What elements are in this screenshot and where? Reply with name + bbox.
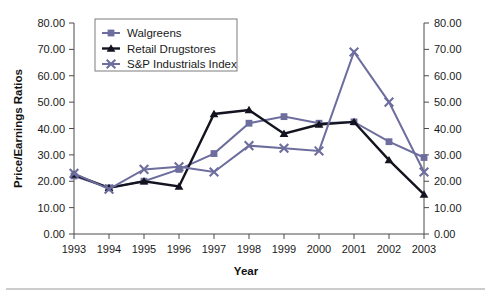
price-earnings-ratio-line-chart: 0.0010.0020.0030.0040.0050.0060.0070.008… [0, 0, 491, 292]
secondary-y-axis-tick-labels: 0.0010.0020.0030.0040.0050.0060.0070.008… [434, 17, 462, 240]
y-axis-title: Price/Earnings Ratios [12, 69, 24, 188]
chart-container: 0.0010.0020.0030.0040.0050.0060.0070.008… [0, 0, 491, 292]
legend-item-label: S&P Industrials Index [127, 58, 237, 70]
y-axis-tick-label: 60.00 [37, 70, 65, 82]
data-point-marker [211, 150, 218, 157]
x-axis-title: Year [234, 265, 259, 277]
y-axis-tick-label: 10.00 [37, 202, 65, 214]
secondary-y-axis-tick-label: 50.00 [434, 96, 462, 108]
secondary-y-axis-tick-label: 10.00 [434, 202, 462, 214]
legend-item-label: Walgreens [127, 27, 182, 39]
x-axis-tick-label: 2003 [412, 243, 436, 255]
x-axis-tick-label: 1996 [167, 243, 191, 255]
x-axis-tick-label: 2001 [342, 243, 366, 255]
x-axis-tick-label: 2002 [377, 243, 401, 255]
y-axis-tick-label: 70.00 [37, 43, 65, 55]
y-axis-tick-label: 0.00 [44, 228, 65, 240]
y-axis-tick-label: 80.00 [37, 17, 65, 29]
y-axis-tick-label: 20.00 [37, 175, 65, 187]
x-axis-tick-label: 1998 [237, 243, 261, 255]
secondary-y-axis-tick-label: 70.00 [434, 43, 462, 55]
y-axis-tick-label: 40.00 [37, 123, 65, 135]
data-point-marker [246, 120, 253, 127]
y-axis-tick-label: 50.00 [37, 96, 65, 108]
data-point-marker [108, 30, 115, 37]
x-axis-tick-labels: 1993199419951996199719981999200020012002… [62, 243, 436, 255]
secondary-y-axis-tick-label: 20.00 [434, 175, 462, 187]
secondary-y-axis-tick-label: 0.00 [434, 228, 455, 240]
data-point-marker [386, 138, 393, 145]
x-axis-tick-label: 1995 [132, 243, 156, 255]
secondary-y-axis-tick-label: 60.00 [434, 70, 462, 82]
data-point-marker [421, 154, 428, 161]
data-point-marker [281, 113, 288, 120]
y-axis-tick-labels: 0.0010.0020.0030.0040.0050.0060.0070.008… [37, 17, 65, 240]
y-axis-tick-label: 30.00 [37, 149, 65, 161]
x-axis-tick-label: 1994 [97, 243, 121, 255]
x-axis-tick-label: 1993 [62, 243, 86, 255]
secondary-y-axis-tick-label: 30.00 [434, 149, 462, 161]
square-marker-icon [108, 30, 115, 37]
x-axis-tick-label: 2000 [307, 243, 331, 255]
secondary-y-axis-tick-label: 40.00 [434, 123, 462, 135]
x-axis-tick-label: 1999 [272, 243, 296, 255]
legend-item-label: Retail Drugstores [127, 43, 216, 55]
secondary-y-axis-tick-label: 80.00 [434, 17, 462, 29]
chart-legend: WalgreensRetail DrugstoresS&P Industrial… [95, 19, 237, 71]
x-axis-tick-label: 1997 [202, 243, 226, 255]
